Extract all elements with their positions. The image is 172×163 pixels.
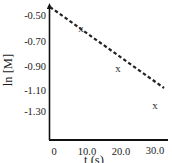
y-tick-label: -1.30 [24,106,46,117]
y-tick-label: -0.70 [24,36,46,47]
y-tick-label: -0.90 [24,61,46,72]
x-tick-label: 0 [51,146,56,157]
fit-line [50,7,164,88]
chart: -0.50 -0.70 -0.90 -1.10 -1.30 0 10.0 20.… [0,0,172,163]
data-point-marker: x [115,62,121,74]
x-axis-label: t (s) [84,153,104,163]
x-tick-label: 20.0 [112,146,130,157]
y-axis-label: ln [M] [1,54,15,86]
data-point-marker: x [152,99,158,111]
y-tick-label: -0.50 [24,10,46,21]
x-tick-label: 30.0 [146,145,164,156]
y-tick-label: -1.10 [24,85,46,96]
data-point-marker: x [78,22,84,34]
